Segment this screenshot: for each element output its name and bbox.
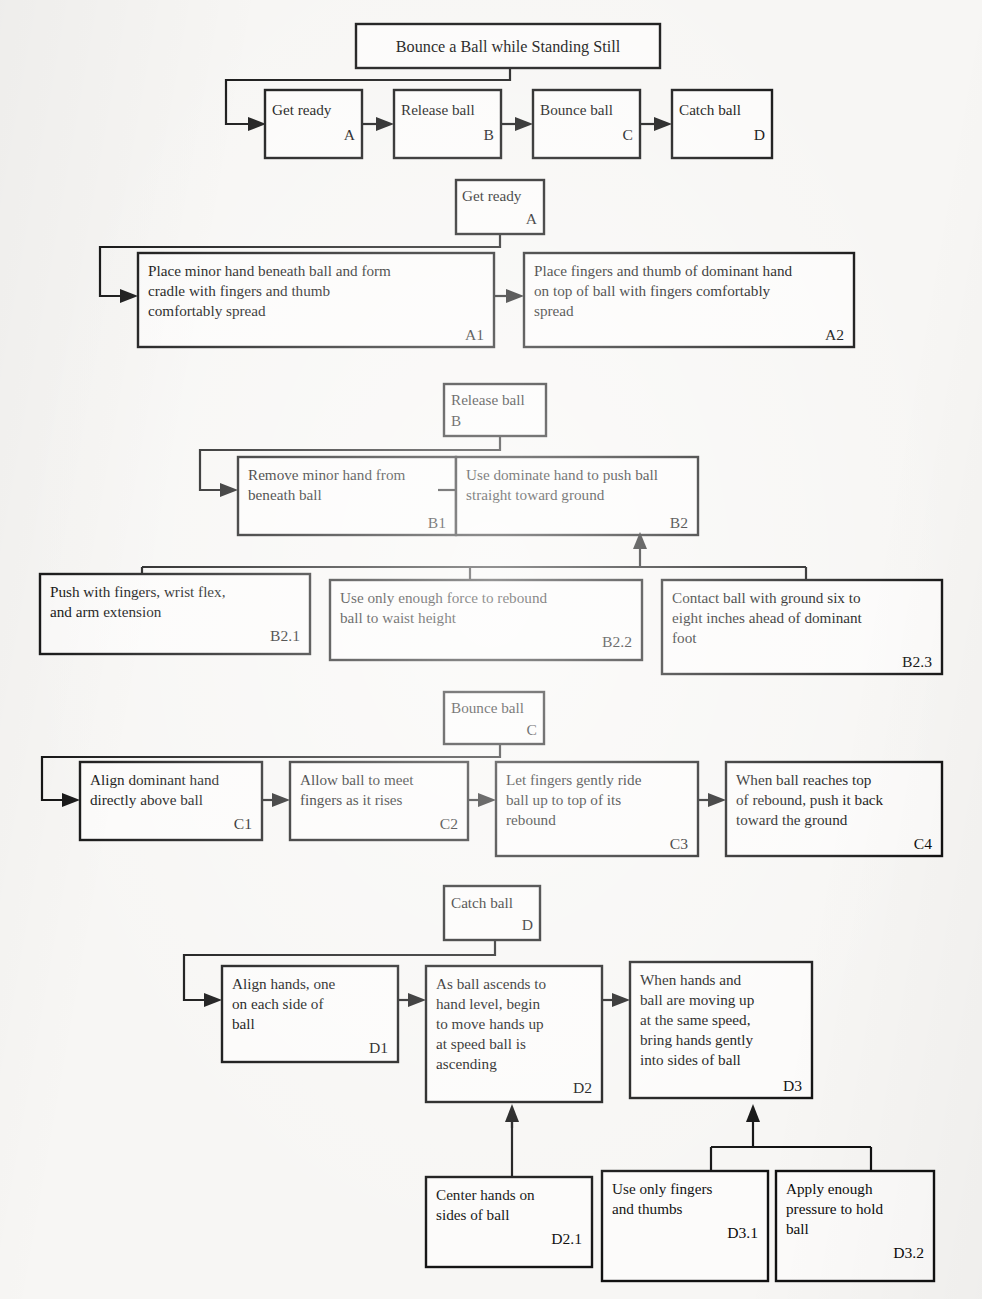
- section-A-parent-label: Get ready: [462, 187, 522, 204]
- arrowhead-c1-to-c2: [272, 793, 290, 807]
- box-B2-2-line-2: ball to waist height: [340, 609, 457, 626]
- box-A2[interactable]: Place fingers and thumb of dominant hand…: [524, 253, 854, 347]
- box-C2-code: C2: [440, 815, 458, 832]
- box-D3-2[interactable]: Apply enough pressure to hold ball D3.2: [776, 1171, 934, 1281]
- arrowhead-b-to-c: [515, 117, 533, 131]
- box-B2-3[interactable]: Contact ball with ground six to eight in…: [662, 580, 942, 674]
- box-D[interactable]: Catch ball D: [672, 90, 772, 158]
- diagram-page: Bounce a Ball while Standing Still Get r…: [0, 0, 982, 1299]
- box-C4[interactable]: When ball reaches top of rebound, push i…: [726, 762, 942, 856]
- level-1-row: Get ready A Release ball B Bounce ball C: [265, 90, 772, 158]
- box-C4-line-2: of rebound, push it back: [736, 791, 884, 808]
- box-B2-3-line-3: foot: [672, 629, 697, 646]
- connector-C2-to-C3: [468, 793, 496, 807]
- box-C3-line-2: ball up to top of its: [506, 791, 621, 808]
- box-D3-1-line-1: Use only fingers: [612, 1180, 712, 1197]
- connector-B2-subtask-bus: [142, 532, 806, 580]
- box-C4-code: C4: [914, 835, 932, 852]
- box-A2-line-3: spread: [534, 302, 574, 319]
- box-D3-code: D3: [783, 1077, 802, 1094]
- section-B-parent-label: Release ball: [451, 391, 525, 408]
- connector-D2-to-D3: [602, 993, 630, 1007]
- connector-A-to-B: [362, 117, 394, 131]
- box-B2-line-1: Use dominate hand to push ball: [466, 466, 658, 483]
- box-B2-2-line-1: Use only enough force to rebound: [340, 589, 547, 606]
- box-C3-line-3: rebound: [506, 811, 556, 828]
- arrowhead-d2-1-to-d2: [505, 1104, 519, 1122]
- box-D3-2-line-1: Apply enough: [786, 1180, 873, 1197]
- box-D3-1-line-2: and thumbs: [612, 1200, 683, 1217]
- section-A-parent-box[interactable]: Get ready A: [456, 180, 544, 234]
- box-D1-line-2: on each side of: [232, 995, 324, 1012]
- section-B-parent-code: B: [451, 412, 461, 429]
- box-B-code: B: [484, 126, 494, 143]
- box-D3-1[interactable]: Use only fingers and thumbs D3.1: [602, 1171, 768, 1281]
- box-B[interactable]: Release ball B: [394, 90, 501, 158]
- box-D3-line-3: at the same speed,: [640, 1011, 751, 1028]
- arrowhead-d-to-d1: [204, 993, 222, 1007]
- box-C3-line-1: Let fingers gently ride: [506, 771, 642, 788]
- box-C2[interactable]: Allow ball to meet fingers as it rises C…: [290, 762, 468, 840]
- arrowhead-d2-to-d3: [612, 993, 630, 1007]
- box-B2-1-line-2: and arm extension: [50, 603, 162, 620]
- box-D1[interactable]: Align hands, one on each side of ball D1: [222, 966, 398, 1062]
- box-C[interactable]: Bounce ball C: [533, 90, 640, 158]
- box-A1[interactable]: Place minor hand beneath ball and form c…: [138, 253, 494, 347]
- box-B1[interactable]: Remove minor hand from beneath ball B1: [238, 457, 456, 535]
- connector-B-to-C: [501, 117, 533, 131]
- box-D3[interactable]: When hands and ball are moving up at the…: [630, 962, 812, 1098]
- box-A[interactable]: Get ready A: [265, 90, 362, 158]
- box-A2-code: A2: [825, 326, 844, 343]
- box-C1-code: C1: [234, 815, 252, 832]
- arrowhead-title-to-a: [248, 117, 266, 131]
- section-D-parent-code: D: [522, 916, 533, 933]
- box-D2[interactable]: As ball ascends to hand level, begin to …: [426, 966, 602, 1102]
- section-B-parent-box[interactable]: Release ball B: [444, 384, 546, 436]
- section-C-parent-box[interactable]: Bounce ball C: [444, 692, 544, 744]
- box-D2-line-4: at speed ball is: [436, 1035, 526, 1052]
- connector-D1-to-D2: [398, 993, 426, 1007]
- arrowhead-b-to-b1: [220, 483, 238, 497]
- box-D2-code: D2: [573, 1079, 592, 1096]
- box-D1-line-3: ball: [232, 1015, 255, 1032]
- box-D2-1-line-2: sides of ball: [436, 1206, 509, 1223]
- box-C4-line-3: toward the ground: [736, 811, 848, 828]
- box-C1-line-2: directly above ball: [90, 791, 203, 808]
- box-D3-1-code: D3.1: [727, 1224, 758, 1241]
- arrowhead-a1-to-a2: [506, 289, 524, 303]
- box-D-code: D: [754, 126, 765, 143]
- connector-C1-to-C2: [262, 793, 290, 807]
- box-B2-2[interactable]: Use only enough force to rebound ball to…: [330, 580, 642, 660]
- arrowhead-c3-to-c4: [708, 793, 726, 807]
- box-A1-code: A1: [465, 326, 484, 343]
- box-B2-line-2: straight toward ground: [466, 486, 605, 503]
- connector-C3-to-C4: [698, 793, 726, 807]
- box-C2-line-2: fingers as it rises: [300, 791, 403, 808]
- box-D2-1[interactable]: Center hands on sides of ball D2.1: [426, 1177, 592, 1267]
- box-C3[interactable]: Let fingers gently ride ball up to top o…: [496, 762, 698, 856]
- box-D2-line-3: to move hands up: [436, 1015, 544, 1032]
- box-A2-line-2: on top of ball with fingers comfortably: [534, 282, 771, 299]
- section-C-parent-label: Bounce ball: [451, 699, 524, 716]
- box-D2-line-2: hand level, begin: [436, 995, 541, 1012]
- box-B2[interactable]: Use dominate hand to push ball straight …: [456, 457, 698, 535]
- box-B-label: Release ball: [401, 101, 475, 118]
- section-A: Get ready A Place minor hand beneath bal…: [100, 180, 854, 347]
- section-C: Bounce ball C Align dominant hand direct…: [42, 692, 942, 856]
- box-C2-line-1: Allow ball to meet: [300, 771, 414, 788]
- arrowhead-d1-to-d2: [408, 993, 426, 1007]
- box-B2-1[interactable]: Push with fingers, wrist flex, and arm e…: [40, 574, 310, 654]
- box-D3-2-code: D3.2: [893, 1244, 924, 1261]
- box-A1-line-1: Place minor hand beneath ball and form: [148, 262, 391, 279]
- box-title-label: Bounce a Ball while Standing Still: [396, 38, 621, 56]
- box-C3-code: C3: [670, 835, 688, 852]
- box-D1-line-1: Align hands, one: [232, 975, 336, 992]
- connector-C-to-D: [640, 117, 672, 131]
- box-C-label: Bounce ball: [540, 101, 613, 118]
- box-B2-1-line-1: Push with fingers, wrist flex,: [50, 583, 226, 600]
- box-C1[interactable]: Align dominant hand directly above ball …: [80, 762, 262, 840]
- box-D2-1-code: D2.1: [551, 1230, 582, 1247]
- section-B: Release ball B Remove minor hand from be…: [40, 384, 942, 674]
- box-D2-line-1: As ball ascends to: [436, 975, 546, 992]
- section-D-parent-box[interactable]: Catch ball D: [444, 886, 540, 940]
